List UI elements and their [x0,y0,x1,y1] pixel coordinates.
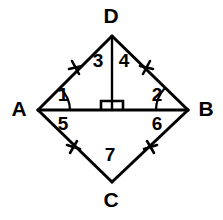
angle-label-5: 5 [58,113,69,134]
vertex-label-A: A [11,97,26,120]
segment-DB [112,36,188,110]
angle-label-3: 3 [93,50,104,71]
angle-label-6: 6 [152,113,163,134]
vertex-label-C: C [103,188,118,211]
angle-label-2: 2 [152,84,163,105]
angle-label-1: 1 [58,84,69,105]
geometry-figure: D A B C 1 2 3 4 5 6 7 [0,0,223,220]
vertex-label-D: D [103,4,118,27]
angle-label-7: 7 [105,144,116,165]
segment-AD [38,36,112,110]
geometry-canvas: D A B C 1 2 3 4 5 6 7 [0,0,223,220]
vertex-label-B: B [198,97,213,120]
angle-label-4: 4 [119,50,130,71]
